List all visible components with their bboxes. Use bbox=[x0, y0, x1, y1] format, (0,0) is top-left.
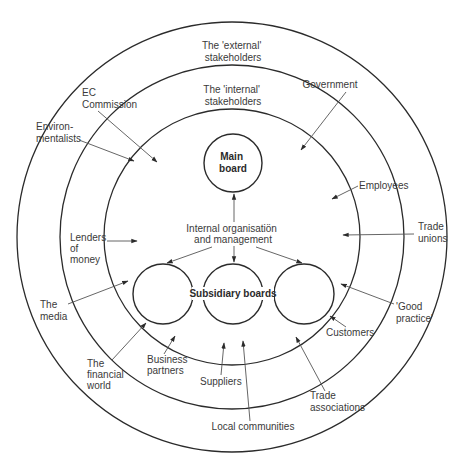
employees-label: Employees bbox=[359, 180, 408, 191]
arrow-to-sub-left bbox=[167, 247, 212, 263]
trade-associations-label: Trade associations bbox=[310, 390, 365, 413]
good-practice-label: 'Good practice' bbox=[396, 301, 433, 324]
main-board-label: Main board bbox=[219, 151, 247, 174]
arrow-suppliers bbox=[221, 343, 224, 375]
subsidiary-board-right bbox=[274, 264, 334, 324]
arrow-environmentalists bbox=[79, 140, 134, 161]
lenders-of-money-label: Lenders of money bbox=[70, 232, 109, 265]
business-partners-label: Business partners bbox=[147, 354, 190, 376]
environmentalists-label: Environ- mentalists bbox=[36, 121, 81, 144]
arrow-trade-associations bbox=[296, 337, 325, 391]
internal-organisation-label: Internal organisatiön and management bbox=[186, 223, 279, 245]
arrow-to-sub-right bbox=[256, 247, 302, 263]
external-stakeholders-label: The 'external' stakeholders bbox=[202, 40, 264, 63]
trade-unions-label: Trade unions bbox=[418, 221, 447, 244]
arrow-ec-commission bbox=[98, 111, 157, 162]
arrow-the-financial-world bbox=[112, 323, 146, 360]
arrow-customers bbox=[330, 316, 346, 327]
arrow-government bbox=[301, 92, 346, 150]
ec-commission-label: EC Commission bbox=[82, 87, 137, 110]
subsidiary-boards-label: Subsidiary boards bbox=[189, 288, 277, 299]
the-financial-world-label: The financial world bbox=[86, 358, 126, 391]
internal-stakeholders-label: The 'internal' stakeholders bbox=[203, 84, 262, 107]
local-communities-label: Local communities bbox=[212, 421, 295, 432]
arrow-the-media bbox=[68, 281, 128, 304]
subsidiary-board-left bbox=[133, 264, 193, 324]
customers-label: Customers bbox=[326, 327, 374, 338]
the-media-label: The media bbox=[40, 299, 68, 322]
government-label: Government bbox=[302, 79, 357, 90]
stakeholder-diagram: The 'external' stakeholders The 'interna… bbox=[0, 0, 461, 468]
arrow-good-practice bbox=[341, 284, 394, 304]
suppliers-label: Suppliers bbox=[200, 376, 242, 387]
